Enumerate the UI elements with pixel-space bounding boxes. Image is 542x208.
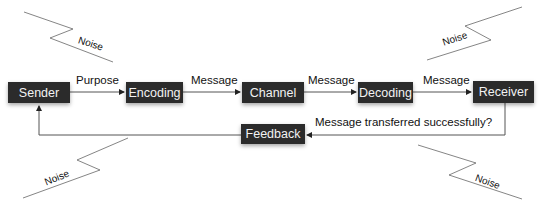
edge-label-purpose: Purpose bbox=[76, 74, 119, 86]
node-feedback: Feedback bbox=[241, 124, 305, 144]
node-encoding: Encoding bbox=[126, 82, 183, 103]
node-sender: Sender bbox=[8, 82, 70, 103]
edge-label-feedback-question: Message transferred successfully? bbox=[315, 116, 492, 128]
edge-label-message-2: Message bbox=[308, 74, 355, 86]
node-channel: Channel bbox=[242, 82, 304, 103]
node-receiver: Receiver bbox=[473, 81, 534, 103]
edge-label-message-3: Message bbox=[423, 74, 470, 86]
node-decoding: Decoding bbox=[358, 82, 413, 103]
edge-label-message-1: Message bbox=[191, 74, 238, 86]
